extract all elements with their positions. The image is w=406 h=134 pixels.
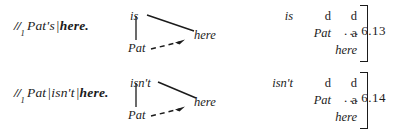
matrix-cell [252, 109, 296, 126]
dashed-arrow-head [175, 40, 185, 45]
tone-group-subscript: 1 [21, 28, 25, 38]
tone-diagram-top-label: is [130, 10, 138, 23]
transcription-word-stressed: here. [60, 18, 89, 33]
matrix-cell: d [296, 75, 334, 92]
tone-group-mark: // [14, 85, 21, 100]
matrix-cell: Pat [296, 92, 334, 109]
tone-diagram-right-label: here [194, 96, 216, 109]
matrix-cell: isn't [252, 75, 296, 92]
reference-leader-dots: ... [344, 90, 360, 105]
matrix-cell: here [334, 109, 360, 126]
matrix-cell [296, 109, 334, 126]
matrix-cell: d [296, 8, 334, 25]
tone-diagram-bottom-label: Pat [128, 42, 145, 55]
matrix-cell [296, 42, 334, 59]
matrix-cell [252, 92, 296, 109]
tone-group-mark: // [14, 18, 21, 33]
dashed-arrow-head [175, 107, 185, 112]
matrix-cell [252, 42, 296, 59]
reference-number: 6.14 [361, 90, 386, 105]
example-reference: ...6.13 [344, 23, 386, 39]
dashed-arrow-line [151, 109, 180, 116]
example-row: //1Pat's|here. is Pat here is d d Pat a … [0, 0, 406, 67]
transcription-word: Pat's [27, 18, 55, 33]
transcription-line: //1Pat|isn't|here. [14, 85, 109, 103]
tone-diagram-top-label: isn't [130, 77, 151, 90]
transcription-word: Pat [27, 85, 46, 100]
tone-diagram-bottom-label: Pat [128, 109, 145, 122]
tone-diagram: is Pat here [128, 4, 238, 62]
transcription-line: //1Pat's|here. [14, 18, 89, 36]
transcription-word: isn't [51, 85, 74, 100]
solid-connector-line [147, 15, 194, 31]
tone-diagram: isn't Pat here [128, 71, 238, 129]
solid-connector-line [158, 82, 196, 98]
matrix-cell: is [252, 8, 296, 25]
example-reference: ...6.14 [344, 90, 386, 106]
reference-leader-dots: ... [344, 23, 360, 38]
matrix-cell: Pat [296, 25, 334, 42]
matrix-cell: here [334, 42, 360, 59]
tone-notation-figure: { "figure": { "background_color": "#ffff… [0, 0, 406, 134]
example-row: //1Pat|isn't|here. isn't Pat here isn't … [0, 67, 406, 134]
matrix-cell [252, 25, 296, 42]
dashed-arrow-line [151, 42, 180, 49]
tone-group-subscript: 1 [21, 95, 25, 105]
tone-diagram-right-label: here [194, 29, 216, 42]
transcription-word-stressed: here. [80, 85, 109, 100]
reference-number: 6.13 [361, 23, 386, 38]
